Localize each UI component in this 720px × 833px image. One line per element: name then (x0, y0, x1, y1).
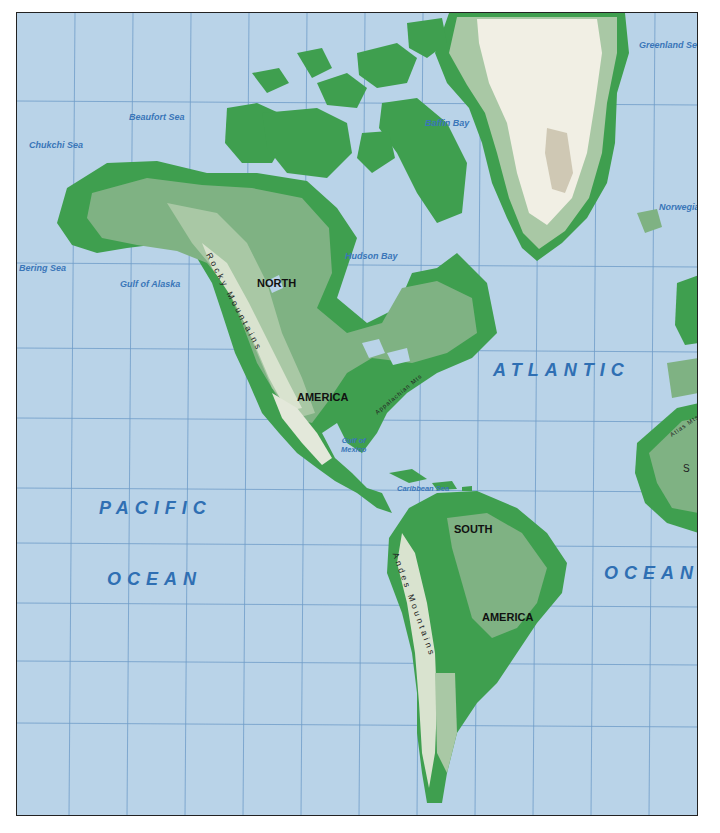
label-caribbean-sea: Caribbean Sea (397, 484, 449, 493)
label-chukchi-sea: Chukchi Sea (29, 140, 83, 150)
label-gulf-of-mexico-line1: Gulf of (341, 436, 366, 445)
south-america-landmass (387, 491, 567, 803)
label-beaufort-sea: Beaufort Sea (129, 112, 185, 122)
label-bering-sea: Bering Sea (19, 263, 66, 273)
label-gulf-of-alaska: Gulf of Alaska (120, 279, 180, 289)
label-sahara-partial: S a (683, 463, 698, 474)
map-frame: Chukchi Sea Beaufort Sea Baffin Bay Gree… (16, 12, 698, 816)
label-hudson-bay: Hudson Bay (345, 251, 398, 261)
label-pacific-ocean: OCEAN (107, 569, 202, 590)
label-north-america: AMERICA (297, 391, 348, 403)
label-gulf-of-mexico: Gulf of Mexico (341, 436, 366, 454)
label-south: SOUTH (454, 523, 493, 535)
label-south-america: AMERICA (482, 611, 533, 623)
label-north: NORTH (257, 277, 296, 289)
label-norwegian-sea: Norwegia (659, 202, 698, 212)
label-atlantic: ATLANTIC (493, 360, 630, 381)
map-canvas (17, 13, 698, 816)
label-gulf-of-mexico-line2: Mexico (341, 445, 366, 454)
greenland-landmass (435, 13, 629, 261)
label-greenland-sea: Greenland Sea (639, 40, 698, 50)
label-pacific: PACIFIC (99, 498, 212, 519)
europe-africa-landmass (635, 209, 698, 533)
label-atlantic-ocean: OCEAN (604, 563, 698, 584)
label-baffin-bay: Baffin Bay (425, 118, 469, 128)
